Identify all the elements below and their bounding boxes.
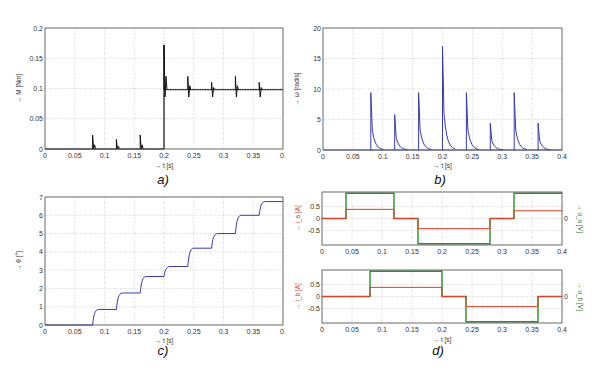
subplot-b: 00.050.10.150.20.250.30.350.405101520→ t…	[293, 25, 567, 188]
x-tick-label: 0.25	[465, 248, 479, 255]
y-tick-label: -0.5	[308, 305, 320, 312]
subplot-c: 00.050.10.150.20.250.30.350.01234567→ t …	[15, 194, 286, 359]
y-tick-label: 20	[313, 25, 321, 32]
y-axis-label: → M [Nm]	[15, 74, 23, 103]
torque-spike	[93, 135, 96, 149]
torque-spike	[188, 76, 191, 97]
torque-spike	[116, 139, 119, 149]
speed-spike	[419, 93, 432, 150]
y-tick-label: 0	[317, 147, 321, 154]
x-tick-label: 0	[43, 328, 47, 335]
subplot-a: 00.050.10.150.20.250.30.350.00.050.10.15…	[15, 25, 286, 188]
subplot-d_bottom: 00.050.10.150.20.250.30.350.40.50-0.50→ …	[294, 270, 584, 358]
x-tick-label: 0.25	[187, 328, 201, 335]
x-tick-label: 0.3	[497, 153, 507, 160]
x-tick-label: 0.15	[406, 153, 420, 160]
y-tick-label: 1	[39, 303, 43, 310]
y-tick-label: -0.5	[308, 227, 320, 234]
y-tick-label: 0.5	[310, 203, 320, 210]
x-tick-label: 0.05	[345, 248, 359, 255]
y-tick-label: 4	[39, 248, 43, 255]
x-tick-label: 0.	[280, 152, 286, 159]
y-tick-label: 0.1	[33, 85, 43, 92]
y-right-tick-label: 0	[564, 215, 568, 222]
x-axis-label: → t [s]	[433, 162, 452, 170]
speed-spike	[490, 123, 503, 150]
subplot-caption: d)	[432, 343, 444, 358]
x-tick-label: 0.2	[437, 248, 447, 255]
y-right-axis-label: → u_a [V]	[576, 204, 584, 233]
torque-spike	[259, 82, 262, 97]
y-tick-label: 0	[39, 322, 43, 329]
y-axis-label: → ω [rad/s]	[293, 72, 301, 105]
x-tick-label: 0	[320, 248, 324, 255]
x-tick-label: 0.1	[100, 328, 110, 335]
x-tick-label: 0	[43, 152, 47, 159]
y-tick-label: 0.05	[29, 115, 43, 122]
y-tick-label: 15	[313, 55, 321, 62]
y-tick-label: 0	[316, 215, 320, 222]
y-left-axis-label: → i_b [A]	[294, 283, 302, 310]
x-tick-label: 0.3	[219, 152, 229, 159]
x-tick-label: 0.1	[377, 326, 387, 333]
y-tick-label: 5	[39, 230, 43, 237]
x-tick-label: 0.05	[68, 328, 82, 335]
speed-spike	[371, 93, 384, 150]
x-tick-label: 0.05	[346, 153, 360, 160]
x-tick-label: 0.2	[159, 152, 169, 159]
x-tick-label: 0.4	[557, 153, 567, 160]
x-tick-label: 0.35	[246, 328, 260, 335]
y-tick-label: 10	[313, 86, 321, 93]
y-tick-label: 0	[316, 293, 320, 300]
x-tick-label: 0	[320, 326, 324, 333]
x-tick-label: 0	[321, 153, 325, 160]
x-tick-label: 0.2	[159, 328, 169, 335]
y-tick-label: 7	[39, 194, 43, 201]
y-tick-label: 5	[317, 116, 321, 123]
y-tick-label: 2	[39, 285, 43, 292]
x-tick-label: 0.2	[438, 153, 448, 160]
torque-spike	[235, 76, 238, 97]
subplot-caption: a)	[157, 172, 169, 187]
x-tick-label: 0.3	[219, 328, 229, 335]
torque-spike	[140, 135, 143, 149]
x-tick-label: 0.4	[557, 248, 567, 255]
x-tick-label: 0.3	[497, 248, 507, 255]
x-tick-label: 0.2	[437, 326, 447, 333]
speed-spike	[443, 46, 456, 150]
x-tick-label: 0.4	[557, 326, 567, 333]
x-tick-label: 0.35	[525, 326, 539, 333]
figure: 00.050.10.150.20.250.30.350.00.050.10.15…	[0, 0, 601, 380]
y-tick-label: 6	[39, 212, 43, 219]
speed-spike	[466, 93, 479, 150]
y-tick-label: 0.5	[310, 281, 320, 288]
y-tick-label: 3	[39, 267, 43, 274]
plot-frame	[45, 197, 283, 325]
x-axis-label: → t [s]	[155, 162, 174, 170]
speed-spike	[538, 123, 551, 150]
subplot-caption: c)	[158, 343, 169, 358]
x-tick-label: 0.15	[405, 326, 419, 333]
x-tick-label: 0.1	[378, 153, 388, 160]
x-tick-label: 0.25	[466, 153, 480, 160]
x-tick-label: 0.	[280, 328, 286, 335]
y-tick-label: 0.2	[33, 25, 43, 32]
y-tick-label: 0	[39, 146, 43, 153]
x-tick-label: 0.35	[525, 248, 539, 255]
y-axis-label: → θ [°]	[15, 251, 23, 271]
series-i_b	[322, 287, 562, 306]
x-tick-label: 0.05	[345, 326, 359, 333]
x-tick-label: 0.25	[465, 326, 479, 333]
y-right-tick-label: 0	[564, 293, 568, 300]
speed-spike	[395, 115, 408, 150]
x-tick-label: 0.05	[68, 152, 82, 159]
x-tick-label: 0.1	[377, 248, 387, 255]
torque-spike	[212, 82, 215, 97]
subplot-d_top: 00.050.10.150.20.250.30.350.40.50-0.50→ …	[294, 192, 584, 255]
x-tick-label: 0.35	[246, 152, 260, 159]
subplot-caption: b)	[434, 172, 446, 187]
x-tick-label: 0.15	[127, 328, 141, 335]
x-tick-label: 0.35	[525, 153, 539, 160]
y-tick-label: 0.15	[29, 55, 43, 62]
y-left-axis-label: → i_a [A]	[294, 205, 302, 232]
